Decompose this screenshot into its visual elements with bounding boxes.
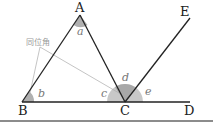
label-a: A bbox=[74, 0, 85, 15]
triangle-diagram: A B C D E a b c d e 同位角 bbox=[0, 0, 213, 126]
ray-ce bbox=[125, 18, 190, 102]
label-e: E bbox=[180, 4, 190, 19]
label-d: D bbox=[184, 103, 194, 118]
angle-label-d: d bbox=[122, 71, 129, 84]
angle-label-c: c bbox=[101, 87, 107, 100]
angle-label-e: e bbox=[145, 85, 152, 98]
segment-ab bbox=[22, 15, 80, 102]
callout-corresponding-angles: 同位角 bbox=[26, 37, 50, 47]
angle-label-a: a bbox=[77, 25, 84, 38]
label-b: B bbox=[18, 103, 28, 118]
label-c: C bbox=[120, 103, 130, 118]
angle-label-b: b bbox=[38, 87, 45, 100]
